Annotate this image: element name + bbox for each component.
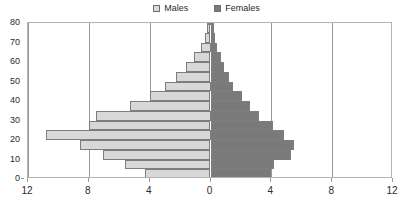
bar-female — [211, 23, 213, 25]
bar-row — [28, 160, 391, 170]
bar-row — [28, 82, 391, 92]
x-tick-mark — [392, 178, 393, 182]
bar-male — [165, 82, 211, 92]
bar-row — [28, 43, 391, 53]
bar-row — [28, 140, 391, 150]
bar-male — [89, 121, 211, 131]
bar-male — [186, 62, 210, 72]
x-tick-mark — [210, 178, 211, 182]
y-tick-label: 50 — [10, 76, 20, 85]
bar-row — [28, 130, 391, 140]
legend-swatch-females-icon — [214, 5, 221, 12]
bar-row — [28, 101, 391, 111]
x-tick-mark — [88, 178, 89, 182]
bar-male — [194, 52, 211, 62]
x-tick-label: 12 — [21, 186, 32, 196]
bar-row — [28, 111, 391, 121]
x-tick-mark — [27, 178, 28, 182]
legend-swatch-males-icon — [153, 5, 160, 12]
y-tick-label: 60 — [10, 57, 20, 66]
bar-female — [211, 43, 217, 53]
bar-male — [130, 101, 211, 111]
bar-female — [211, 72, 229, 82]
bar-female — [211, 111, 260, 121]
legend-entry-females: Females — [214, 4, 260, 13]
x-tick-label: 12 — [386, 186, 397, 196]
bar-female — [211, 140, 295, 150]
bar-female — [211, 130, 284, 140]
population-pyramid-chart: Males Females 01020304050607080 12840481… — [0, 0, 413, 207]
y-tick-mark — [21, 178, 24, 179]
legend-label-males: Males — [164, 4, 188, 13]
bar-female — [211, 33, 216, 43]
bar-female — [211, 101, 251, 111]
x-tick-mark — [149, 178, 150, 182]
bar-female — [211, 52, 222, 62]
plot-area — [27, 22, 392, 178]
x-tick-mark — [331, 178, 332, 182]
y-tick-label: 20 — [10, 135, 20, 144]
y-tick-label: 40 — [10, 96, 20, 105]
bar-row — [28, 23, 391, 24]
x-axis: 128404812 — [27, 178, 392, 204]
bar-row — [28, 169, 391, 178]
bar-row — [28, 150, 391, 160]
bar-male — [103, 150, 211, 160]
x-tick-label: 4 — [268, 186, 274, 196]
bar-female — [211, 121, 273, 131]
y-tick-label: 70 — [10, 37, 20, 46]
bar-female — [211, 62, 225, 72]
y-tick-label: 0 — [15, 174, 20, 183]
bar-male — [150, 91, 211, 101]
bar-male — [96, 111, 210, 121]
x-tick-label: 8 — [328, 186, 334, 196]
bar-female — [211, 169, 272, 178]
y-tick-label: 10 — [10, 154, 20, 163]
bar-row — [28, 62, 391, 72]
legend-entry-males: Males — [153, 4, 188, 13]
x-tick-mark — [270, 178, 271, 182]
legend-label-females: Females — [225, 4, 260, 13]
bar-male — [201, 43, 210, 53]
bar-row — [28, 52, 391, 62]
bar-female — [211, 150, 292, 160]
bar-row — [28, 72, 391, 82]
bar-row — [28, 33, 391, 43]
chart-legend: Males Females — [0, 1, 413, 15]
bar-male — [145, 169, 210, 178]
x-tick-label: 8 — [85, 186, 91, 196]
y-tick-label: 80 — [10, 18, 20, 27]
bar-female — [211, 160, 275, 170]
bar-male — [176, 72, 211, 82]
bar-male — [125, 160, 210, 170]
bar-female — [211, 82, 234, 92]
y-tick-label: 30 — [10, 115, 20, 124]
bar-row — [28, 121, 391, 131]
x-tick-label: 0 — [207, 186, 213, 196]
y-axis: 01020304050607080 — [0, 22, 24, 178]
bar-row — [28, 91, 391, 101]
x-tick-label: 4 — [146, 186, 152, 196]
bar-male — [80, 140, 211, 150]
bar-female — [211, 91, 243, 101]
bar-male — [46, 130, 210, 140]
